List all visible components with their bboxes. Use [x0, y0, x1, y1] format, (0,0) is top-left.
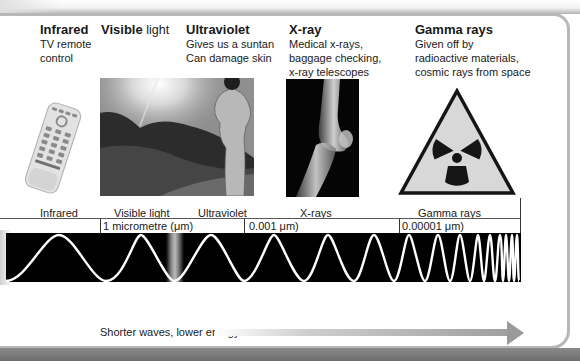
- gamma-desc-line-1: Given off by: [415, 37, 531, 51]
- gamma-title: Gamma rays: [415, 22, 493, 37]
- ultraviolet-title: Ultraviolet: [186, 22, 250, 37]
- arrow-right-icon: [507, 321, 524, 345]
- visible-title-light: light: [146, 23, 169, 37]
- bottom-shadow: [0, 348, 580, 361]
- gamma-desc-line-2: radioactive materials,: [415, 51, 531, 65]
- tv-remote-image: [24, 100, 82, 196]
- knee-xray-image: [286, 79, 359, 197]
- marker-label: 0.001 μm): [244, 220, 299, 232]
- energy-arrow-shaft: [215, 329, 517, 336]
- xray-desc-line-1: Medical x-rays,: [289, 37, 381, 51]
- wavelength-marker-1um: 1 micrometre (μm): [100, 219, 193, 233]
- ultraviolet-heading: Ultraviolet Gives us a suntan Can damage…: [186, 23, 274, 65]
- infrared-desc-line-2: control: [40, 51, 91, 65]
- marker-tick: [100, 219, 101, 233]
- visible-heading: Visible light: [101, 23, 169, 37]
- scale-end-tick: [520, 198, 521, 233]
- infrared-title: Infrared: [40, 22, 88, 37]
- gamma-heading: Gamma rays Given off by radioactive mate…: [415, 23, 531, 79]
- wavelength-marker-0001um: 0.001 μm): [244, 219, 299, 233]
- marker-tick: [399, 219, 400, 233]
- gamma-desc-line-3: cosmic rays from space: [415, 65, 531, 79]
- xray-desc-line-2: baggage checking,: [289, 51, 381, 65]
- xray-heading: X-ray Medical x-rays, baggage checking, …: [289, 23, 381, 79]
- visible-light-landscape-image: [100, 78, 254, 196]
- xray-title: X-ray: [289, 22, 322, 37]
- wavelength-marker-000001um: 0.00001 μm): [399, 219, 464, 233]
- electromagnetic-wave: [6, 233, 521, 282]
- ultraviolet-desc-line-2: Can damage skin: [186, 51, 274, 65]
- infrared-desc-line-1: TV remote: [40, 37, 91, 51]
- xray-desc-line-3: x-ray telescopes: [289, 65, 381, 79]
- wave-panel: [6, 233, 521, 282]
- top-shadow: [0, 0, 580, 14]
- visible-title: Visible: [101, 22, 143, 37]
- marker-label: 1 micrometre (μm): [100, 220, 193, 232]
- marker-tick: [244, 219, 245, 233]
- marker-label: 0.00001 μm): [399, 220, 464, 232]
- infrared-heading: Infrared TV remote control: [40, 23, 91, 65]
- radiation-hazard-icon: [398, 88, 516, 196]
- ultraviolet-desc-line-1: Gives us a suntan: [186, 37, 274, 51]
